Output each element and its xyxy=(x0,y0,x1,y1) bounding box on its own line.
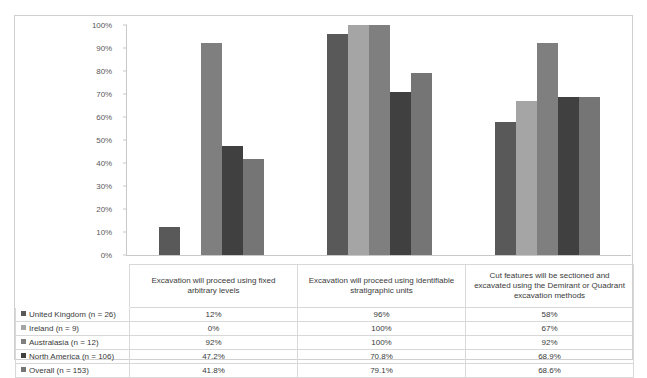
category-header-cell: Excavation will proceed using identifiab… xyxy=(298,265,466,308)
y-axis-tick-label: 0% xyxy=(101,251,112,260)
y-axis-tick-label: 80% xyxy=(96,67,112,76)
y-axis-tick-label: 90% xyxy=(96,44,112,53)
bar xyxy=(390,92,411,255)
bar xyxy=(201,43,222,255)
value-cell: 100% xyxy=(298,336,466,350)
bar xyxy=(495,122,516,255)
data-table-region: Excavation will proceed using fixed arbi… xyxy=(15,264,634,360)
legend-entry[interactable]: North America (n = 106) xyxy=(16,350,130,364)
table-row: Ireland (n = 9)0%100%67% xyxy=(16,322,634,336)
plot-area xyxy=(127,25,631,255)
bar xyxy=(516,101,537,255)
bar xyxy=(243,159,264,255)
category-header-cell: Excavation will proceed using fixed arbi… xyxy=(130,265,298,308)
value-cell: 92% xyxy=(130,336,298,350)
y-axis-tick-label: 100% xyxy=(92,21,112,30)
bar xyxy=(537,43,558,255)
y-axis-tick-label: 70% xyxy=(96,90,112,99)
y-axis-tick-label: 60% xyxy=(96,113,112,122)
bar xyxy=(558,97,579,255)
table-corner-cell xyxy=(16,265,130,308)
y-axis-tick-label: 10% xyxy=(96,228,112,237)
legend-entry[interactable]: Overall (n = 153) xyxy=(16,364,130,378)
chart-container: 0%10%20%30%40%50%60%70%80%90%100% Excava… xyxy=(14,15,633,360)
legend-entry[interactable]: Ireland (n = 9) xyxy=(16,322,130,336)
y-axis-tick-label: 40% xyxy=(96,159,112,168)
value-cell: 100% xyxy=(298,322,466,336)
legend-entry[interactable]: United Kingdom (n = 26) xyxy=(16,308,130,322)
legend-swatch-icon xyxy=(21,339,26,344)
x-axis-line xyxy=(126,255,631,256)
legend-label: Overall (n = 153) xyxy=(29,366,89,375)
table-row: Overall (n = 153)41.8%79.1%68.6% xyxy=(16,364,634,378)
bar xyxy=(348,25,369,255)
bar-group xyxy=(463,25,631,255)
y-axis: 0%10%20%30%40%50%60%70%80%90%100% xyxy=(15,16,125,264)
legend-entry[interactable]: Australasia (n = 12) xyxy=(16,336,130,350)
bar xyxy=(411,73,432,255)
category-header-cell: Cut features will be sectioned and excav… xyxy=(466,265,634,308)
value-cell: 92% xyxy=(466,336,634,350)
plot-region: 0%10%20%30%40%50%60%70%80%90%100% xyxy=(15,16,634,264)
table-row: United Kingdom (n = 26)12%96%58% xyxy=(16,308,634,322)
legend-label: Australasia (n = 12) xyxy=(29,338,99,347)
legend-label: United Kingdom (n = 26) xyxy=(29,310,116,319)
value-cell: 12% xyxy=(130,308,298,322)
value-cell: 67% xyxy=(466,322,634,336)
bar-group xyxy=(127,25,295,255)
value-cell: 0% xyxy=(130,322,298,336)
bar xyxy=(159,227,180,255)
table-row: North America (n = 106)47.2%70.8%68.9% xyxy=(16,350,634,364)
legend-swatch-icon xyxy=(21,311,26,316)
value-cell: 70.8% xyxy=(298,350,466,364)
value-cell: 68.6% xyxy=(466,364,634,378)
y-axis-tick-label: 50% xyxy=(96,136,112,145)
y-axis-tick-label: 30% xyxy=(96,182,112,191)
table-header-row: Excavation will proceed using fixed arbi… xyxy=(16,265,634,308)
table-row: Australasia (n = 12)92%100%92% xyxy=(16,336,634,350)
bar xyxy=(579,97,600,255)
bar-group xyxy=(295,25,463,255)
value-cell: 79.1% xyxy=(298,364,466,378)
legend-label: North America (n = 106) xyxy=(29,352,114,361)
legend-label: Ireland (n = 9) xyxy=(29,324,79,333)
bar xyxy=(369,25,390,255)
legend-swatch-icon xyxy=(21,367,26,372)
data-table: Excavation will proceed using fixed arbi… xyxy=(15,264,634,378)
value-cell: 47.2% xyxy=(130,350,298,364)
legend-swatch-icon xyxy=(21,325,26,330)
value-cell: 96% xyxy=(298,308,466,322)
y-axis-tick-label: 20% xyxy=(96,205,112,214)
value-cell: 58% xyxy=(466,308,634,322)
bar xyxy=(327,34,348,255)
value-cell: 68.9% xyxy=(466,350,634,364)
bar xyxy=(222,146,243,255)
value-cell: 41.8% xyxy=(130,364,298,378)
legend-swatch-icon xyxy=(21,353,26,358)
